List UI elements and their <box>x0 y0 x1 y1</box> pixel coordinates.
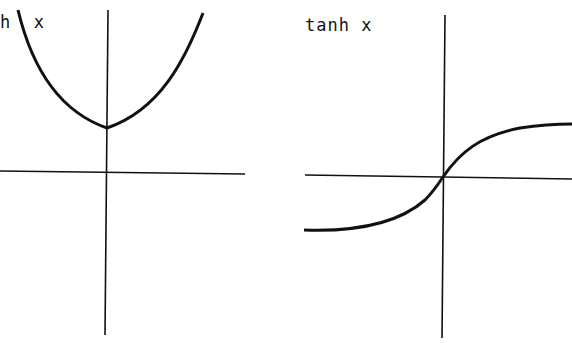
tanh-label: tanh x <box>305 15 372 35</box>
figure-canvas <box>0 0 572 343</box>
cosh-curve <box>18 10 203 128</box>
cosh-x-axis <box>0 171 245 174</box>
tanh-x-axis <box>305 175 572 179</box>
cosh-label: h x <box>0 12 45 32</box>
tanh-plot <box>304 15 572 338</box>
cosh-plot <box>0 10 245 335</box>
